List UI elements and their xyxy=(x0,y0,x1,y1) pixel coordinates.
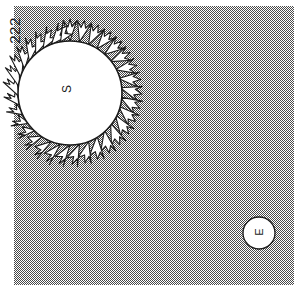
figure-canvas: 222 S E xyxy=(0,0,294,296)
earth-disc xyxy=(243,217,275,249)
figure-drawing xyxy=(0,0,294,296)
sun-disc xyxy=(18,41,122,145)
